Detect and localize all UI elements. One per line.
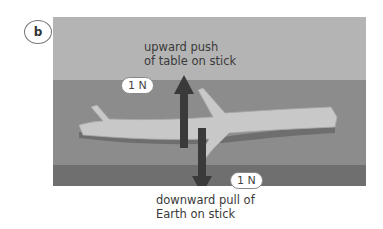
panel-label: b — [34, 25, 43, 39]
downward-force-label: downward pull of Earth on stick — [156, 193, 255, 221]
upward-label-line2: of table on stick — [144, 54, 236, 68]
upward-force-label: upward push of table on stick — [144, 40, 236, 68]
downward-force-magnitude: 1 N — [230, 172, 263, 189]
downward-label-line2: Earth on stick — [156, 207, 255, 221]
panel-label-badge: b — [24, 20, 52, 44]
downward-label-line1: downward pull of — [156, 193, 255, 207]
upward-force-magnitude: 1 N — [121, 77, 154, 94]
upward-label-line1: upward push — [144, 40, 236, 54]
